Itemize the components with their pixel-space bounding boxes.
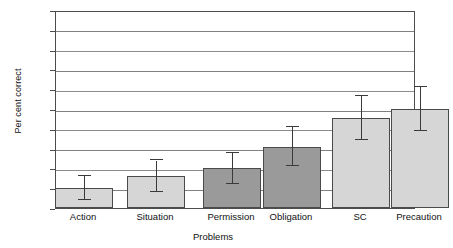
error-cap-upper-sc xyxy=(355,95,368,96)
error-cap-upper-precaution xyxy=(414,86,427,87)
error-cap-upper-permission xyxy=(226,152,239,153)
error-bar-obligation xyxy=(292,127,293,167)
y-axis-title: Per cent correct xyxy=(13,39,23,163)
error-cap-lower-action xyxy=(78,199,91,200)
gridline-60 xyxy=(56,91,414,92)
error-cap-lower-sc xyxy=(355,139,368,140)
error-cap-lower-obligation xyxy=(286,165,299,166)
error-cap-lower-precaution xyxy=(414,130,427,131)
y-tick-mark-0 xyxy=(50,209,55,210)
error-cap-lower-permission xyxy=(226,183,239,184)
error-bar-sc xyxy=(361,96,362,140)
error-cap-upper-action xyxy=(78,175,91,176)
error-bar-situation xyxy=(156,161,157,193)
gridline-90 xyxy=(56,31,414,32)
error-cap-upper-obligation xyxy=(286,126,299,127)
x-label-precaution: Precaution xyxy=(369,212,453,222)
gridline-80 xyxy=(56,51,414,52)
error-bar-action xyxy=(84,176,85,200)
error-bar-precaution xyxy=(420,87,421,131)
error-cap-lower-situation xyxy=(150,191,163,192)
error-cap-upper-situation xyxy=(150,159,163,160)
plot-area xyxy=(55,11,415,209)
gridline-70 xyxy=(56,71,414,72)
x-axis-title: Problems xyxy=(0,231,426,242)
error-bar-permission xyxy=(232,153,233,185)
